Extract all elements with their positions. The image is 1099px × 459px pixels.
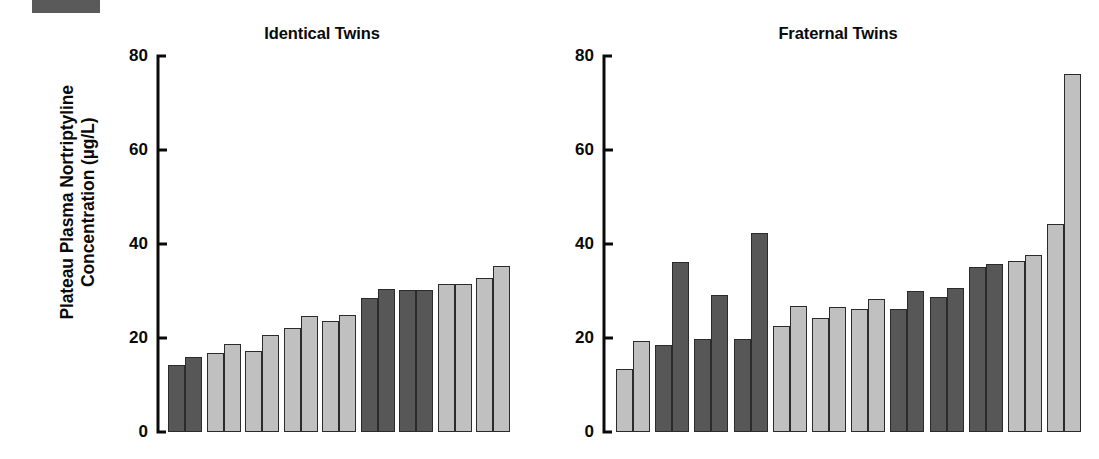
twin-pair-fraternal-twins-10[interactable] [969, 56, 1008, 432]
y-tick-label-60: 60 [560, 140, 594, 160]
bar-identical-twins-pair5-b[interactable] [339, 315, 356, 432]
bar-fraternal-twins-pair7-a[interactable] [851, 309, 868, 432]
bar-identical-twins-pair8-b[interactable] [455, 284, 472, 432]
y-tick-label-80: 80 [114, 46, 148, 66]
twin-pair-identical-twins-7[interactable] [399, 56, 438, 432]
bar-fraternal-twins-pair9-a[interactable] [930, 297, 947, 432]
bar-fraternal-twins-pair1-b[interactable] [633, 341, 650, 432]
bar-identical-twins-pair9-a[interactable] [476, 278, 493, 432]
twin-pair-identical-twins-5[interactable] [322, 56, 361, 432]
bar-identical-twins-pair9-b[interactable] [493, 266, 510, 432]
twin-pair-fraternal-twins-12[interactable] [1047, 56, 1086, 432]
twin-study-bar-chart-figure: Plateau Plasma Nortriptyline Concentrati… [0, 0, 1099, 459]
bars-group-fraternal-twins [616, 56, 1086, 432]
twin-pair-fraternal-twins-3[interactable] [694, 56, 733, 432]
bar-fraternal-twins-pair2-b[interactable] [672, 262, 689, 432]
bar-fraternal-twins-pair4-b[interactable] [751, 233, 768, 432]
bar-fraternal-twins-pair12-a[interactable] [1047, 224, 1064, 432]
bar-identical-twins-pair6-a[interactable] [361, 298, 378, 432]
panel-title-fraternal: Fraternal Twins [578, 24, 1098, 43]
bar-identical-twins-pair1-b[interactable] [185, 357, 202, 432]
twin-pair-fraternal-twins-9[interactable] [930, 56, 969, 432]
bar-fraternal-twins-pair7-b[interactable] [868, 299, 885, 432]
bar-identical-twins-pair2-a[interactable] [207, 353, 224, 432]
bar-fraternal-twins-pair3-a[interactable] [694, 339, 711, 432]
twin-pair-fraternal-twins-1[interactable] [616, 56, 655, 432]
bar-identical-twins-pair7-b[interactable] [416, 290, 433, 432]
bar-identical-twins-pair4-a[interactable] [284, 328, 301, 432]
bar-identical-twins-pair5-a[interactable] [322, 321, 339, 432]
twin-pair-fraternal-twins-5[interactable] [773, 56, 812, 432]
bar-identical-twins-pair7-a[interactable] [399, 290, 416, 432]
bar-fraternal-twins-pair3-b[interactable] [711, 295, 728, 432]
y-tick-label-40: 40 [560, 234, 594, 254]
y-tick-label-80: 80 [560, 46, 594, 66]
bar-fraternal-twins-pair4-a[interactable] [734, 339, 751, 432]
bar-fraternal-twins-pair12-b[interactable] [1064, 74, 1081, 432]
bar-fraternal-twins-pair6-b[interactable] [829, 307, 846, 432]
y-tick-label-0: 0 [560, 422, 594, 442]
bar-identical-twins-pair8-a[interactable] [438, 284, 455, 432]
twin-pair-identical-twins-3[interactable] [245, 56, 284, 432]
twin-pair-fraternal-twins-8[interactable] [890, 56, 929, 432]
y-axis-label: Plateau Plasma Nortriptyline Concentrati… [57, 2, 100, 402]
bar-fraternal-twins-pair5-b[interactable] [790, 306, 807, 432]
bars-group-identical-twins [168, 56, 515, 432]
twin-pair-identical-twins-2[interactable] [207, 56, 246, 432]
bar-fraternal-twins-pair8-b[interactable] [907, 291, 924, 432]
panel-title-identical: Identical Twins [132, 24, 512, 43]
bar-fraternal-twins-pair1-a[interactable] [616, 369, 633, 432]
twin-pair-identical-twins-1[interactable] [168, 56, 207, 432]
twin-pair-fraternal-twins-4[interactable] [734, 56, 773, 432]
bar-identical-twins-pair2-b[interactable] [224, 344, 241, 432]
panel-fraternal-twins: Fraternal Twins 020406080 [578, 0, 1098, 459]
twin-pair-identical-twins-9[interactable] [476, 56, 515, 432]
twin-pair-fraternal-twins-2[interactable] [655, 56, 694, 432]
bar-identical-twins-pair6-b[interactable] [378, 289, 395, 432]
bar-fraternal-twins-pair8-a[interactable] [890, 309, 907, 432]
bar-identical-twins-pair4-b[interactable] [301, 316, 318, 432]
bar-identical-twins-pair1-a[interactable] [168, 365, 185, 432]
y-tick-label-20: 20 [114, 328, 148, 348]
bar-fraternal-twins-pair11-a[interactable] [1008, 261, 1025, 432]
y-tick-label-0: 0 [114, 422, 148, 442]
twin-pair-fraternal-twins-6[interactable] [812, 56, 851, 432]
bar-identical-twins-pair3-a[interactable] [245, 351, 262, 432]
panel-identical-twins: Identical Twins 020406080 [132, 0, 512, 459]
bar-fraternal-twins-pair10-a[interactable] [969, 267, 986, 432]
bar-fraternal-twins-pair6-a[interactable] [812, 318, 829, 432]
bar-fraternal-twins-pair10-b[interactable] [986, 264, 1003, 432]
bar-identical-twins-pair3-b[interactable] [262, 335, 279, 432]
twin-pair-fraternal-twins-11[interactable] [1008, 56, 1047, 432]
bar-fraternal-twins-pair5-a[interactable] [773, 326, 790, 432]
bar-fraternal-twins-pair11-b[interactable] [1025, 255, 1042, 432]
bar-fraternal-twins-pair2-a[interactable] [655, 345, 672, 432]
bar-fraternal-twins-pair9-b[interactable] [947, 288, 964, 432]
twin-pair-identical-twins-4[interactable] [284, 56, 323, 432]
twin-pair-identical-twins-6[interactable] [361, 56, 400, 432]
y-tick-label-60: 60 [114, 140, 148, 160]
y-tick-label-40: 40 [114, 234, 148, 254]
twin-pair-fraternal-twins-7[interactable] [851, 56, 890, 432]
twin-pair-identical-twins-8[interactable] [438, 56, 477, 432]
y-tick-label-20: 20 [560, 328, 594, 348]
